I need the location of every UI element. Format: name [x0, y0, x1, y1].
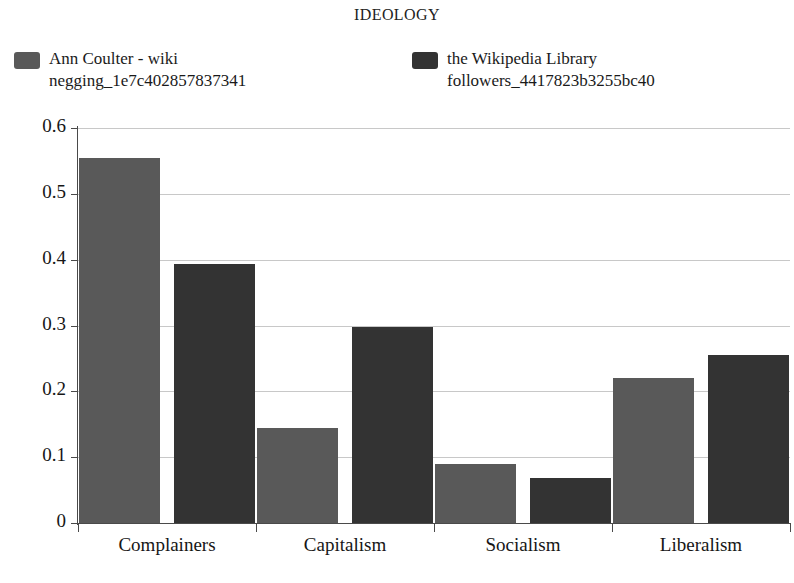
legend-swatch-series-2: [412, 52, 438, 69]
y-axis-tick-label: 0.3: [0, 313, 66, 335]
x-axis-tick: [256, 523, 257, 532]
x-axis-tick: [434, 523, 435, 532]
y-axis-tick-label: 0.1: [0, 444, 66, 466]
x-axis-label-socialism: Socialism: [434, 534, 612, 556]
y-axis-tick-label: 0.4: [0, 247, 66, 269]
x-axis-label-liberalism: Liberalism: [612, 534, 790, 556]
x-axis-label-capitalism: Capitalism: [256, 534, 434, 556]
legend-label-series-2-line2: followers_4417823b3255bc40: [447, 70, 655, 92]
bar-socialism-series-2[interactable]: [530, 478, 611, 523]
legend-label-series-2-line1: the Wikipedia Library: [447, 49, 597, 68]
y-axis-tick-label: 0.6: [0, 115, 66, 137]
bar-socialism-series-1[interactable]: [435, 464, 516, 523]
plot-area: [78, 128, 790, 523]
y-axis-tick-label: 0.2: [0, 378, 66, 400]
legend-item-series-1[interactable]: Ann Coulter - wiki negging_1e7c402857837…: [14, 48, 246, 92]
bar-complainers-series-2[interactable]: [174, 264, 255, 523]
legend-label-series-1-line2: negging_1e7c402857837341: [49, 70, 246, 92]
y-axis-tick-label: 0.5: [0, 181, 66, 203]
y-axis-tick-label: 0: [0, 510, 66, 532]
x-axis-tick: [790, 523, 791, 532]
legend-swatch-series-1: [14, 52, 40, 69]
x-axis-tick: [612, 523, 613, 532]
legend-label-series-1-line1: Ann Coulter - wiki: [49, 49, 178, 68]
bar-chart: IDEOLOGY Ann Coulter - wiki negging_1e7c…: [0, 0, 794, 583]
x-axis-label-complainers: Complainers: [78, 534, 256, 556]
bar-complainers-series-1[interactable]: [79, 158, 160, 523]
legend-label-series-1: Ann Coulter - wiki negging_1e7c402857837…: [49, 48, 246, 92]
legend-label-series-2: the Wikipedia Library followers_4417823b…: [447, 48, 655, 92]
bar-capitalism-series-2[interactable]: [352, 327, 433, 523]
bar-liberalism-series-1[interactable]: [613, 378, 694, 523]
x-axis-tick: [78, 523, 79, 532]
legend-item-series-2[interactable]: the Wikipedia Library followers_4417823b…: [412, 48, 655, 92]
chart-title: IDEOLOGY: [0, 6, 794, 24]
bar-capitalism-series-1[interactable]: [257, 428, 338, 523]
chart-legend: Ann Coulter - wiki negging_1e7c402857837…: [0, 44, 794, 104]
bar-liberalism-series-2[interactable]: [708, 355, 789, 523]
